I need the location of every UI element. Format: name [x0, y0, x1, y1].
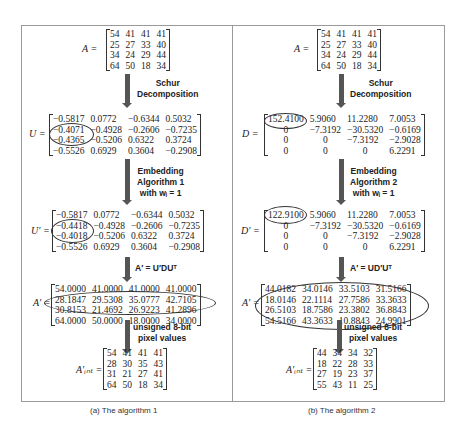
matrix-row: 64501834 [318, 61, 380, 72]
matrix-row: 44343432 [314, 348, 376, 359]
matrix-cell: 5.9060 [307, 210, 344, 221]
matrix-row: 64501834 [107, 61, 169, 72]
matrix-cell: 7.0053 [386, 210, 423, 221]
matrix-cell: −0.7235 [165, 221, 202, 232]
highlight-oval [255, 282, 429, 330]
matrix-row: 55431125 [314, 380, 376, 391]
matrix-row: 54414141 [318, 29, 380, 40]
arrow-down-icon [125, 74, 130, 104]
matrix-cell: −0.6169 [386, 221, 423, 232]
matrix-cell: −2.9028 [386, 231, 423, 242]
step-embedding-label: EmbeddingAlgorithm 1with wᵢ = 1 [137, 166, 184, 199]
matrix-cell: −0.2908 [165, 242, 202, 253]
matrix-u-prime-label: U′ = [31, 225, 50, 236]
caption-b: (b) The algorithm 2 [308, 406, 375, 415]
matrix-cell: −7.3192 [307, 125, 344, 136]
arrow-down-icon [125, 257, 130, 278]
matrix-cell: 0.5032 [162, 114, 199, 125]
matrix-row: 31212741 [104, 369, 166, 380]
matrix-cell: 23 [345, 369, 361, 380]
matrix-a-label: A = [294, 43, 309, 54]
matrix-cell: 50 [123, 61, 139, 72]
matrix-cell: −0.5526 [53, 242, 90, 253]
matrix-cell: −0.5206 [90, 231, 127, 242]
matrix-cell: 0.3724 [162, 135, 199, 146]
matrix-cell: 18 [349, 61, 365, 72]
arrow-down-icon [339, 257, 344, 278]
matrix-cell: 41 [120, 348, 136, 359]
matrix-cell: −0.4928 [90, 221, 127, 232]
step-formula-label: A′ = U′DUᵀ [135, 263, 177, 274]
matrix-cell: 34 [330, 348, 346, 359]
matrix-cell: 0.5032 [165, 210, 202, 221]
matrix-cell: 22 [330, 359, 346, 370]
matrix-cell: 0.3604 [125, 146, 162, 157]
matrix-cell: 33 [349, 40, 365, 51]
matrix-row: −0.55260.69290.3604−0.2908 [53, 242, 203, 253]
matrix-cell: −0.7235 [162, 125, 199, 136]
matrix-cell: 27 [135, 369, 151, 380]
matrix-cell: 18 [135, 380, 151, 391]
matrix-cell: 0 [265, 231, 307, 242]
matrix-cell: 0.6322 [128, 231, 165, 242]
matrix-cell: −30.5320 [344, 125, 386, 136]
matrix-cell: 43 [330, 380, 346, 391]
matrix-cell: −0.2606 [125, 125, 162, 136]
matrix-a-int: 54414141283035433121274164501834 [104, 348, 166, 390]
matrix-a-int-label: A′ᵢₙₜ = [76, 364, 102, 375]
matrix-cell: −0.2606 [128, 221, 165, 232]
highlight-oval [264, 206, 307, 224]
highlight-oval [51, 219, 94, 243]
step-schur-label: SchurDecomposition [137, 78, 198, 100]
matrix-cell: 28 [345, 359, 361, 370]
matrix-cell: 0.3604 [128, 242, 165, 253]
step-schur-label: SchurDecomposition [350, 78, 411, 100]
matrix-cell: 0 [307, 231, 344, 242]
matrix-cell: 21 [120, 369, 136, 380]
matrix-cell: 5.9060 [307, 114, 344, 125]
matrix-cell: 0 [265, 242, 307, 253]
matrix-cell: 27 [123, 40, 139, 51]
matrix-cell: 0 [307, 146, 344, 157]
highlight-oval [49, 123, 94, 146]
matrix-cell: 50 [120, 380, 136, 391]
matrix-cell: 0 [265, 135, 307, 146]
arrow-down-icon [339, 74, 344, 104]
matrix-cell: 35 [135, 359, 151, 370]
matrix-cell: 11.2280 [344, 210, 386, 221]
matrix-cell: 50 [334, 61, 350, 72]
matrix-cell: −0.5526 [50, 146, 87, 157]
matrix-cell: 0 [307, 135, 344, 146]
highlight-oval [264, 113, 307, 129]
matrix-row: 34242944 [107, 50, 169, 61]
matrix-row: −0.55260.69290.3604−0.2908 [50, 146, 200, 157]
matrix-cell: 41 [334, 29, 350, 40]
matrix-cell: 0.3724 [165, 231, 202, 242]
matrix-cell: 11 [345, 380, 361, 391]
matrix-cell: −7.3192 [344, 231, 386, 242]
caption-a: (a) The algorithm 1 [90, 406, 157, 415]
highlight-oval [44, 291, 216, 315]
matrix-row: 54414141 [104, 348, 166, 359]
step-pixel-label: unsigned 8-bitpixel values [344, 322, 402, 344]
matrix-cell: −0.6169 [386, 125, 423, 136]
matrix-cell: 41 [138, 29, 154, 40]
matrix-row: 25273340 [107, 40, 169, 51]
matrix-d-label: D = [242, 128, 258, 139]
matrix-cell: −0.2908 [162, 146, 199, 157]
matrix-row: 25273340 [318, 40, 380, 51]
matrix-row: 54414141 [107, 29, 169, 40]
matrix-cell: −0.6344 [125, 114, 162, 125]
matrix-a-int: 44343432182228332719233755431125 [314, 348, 376, 390]
matrix-cell: 29 [138, 50, 154, 61]
matrix-cell: −30.5320 [344, 221, 386, 232]
matrix-cell: 41 [123, 29, 139, 40]
matrix-row: 18222833 [314, 359, 376, 370]
matrix-row: 28303543 [104, 359, 166, 370]
step-pixel-label: unsigned 8-bitpixel values [133, 322, 191, 344]
matrix-cell: 41 [135, 348, 151, 359]
matrix-u-label: U = [29, 128, 45, 139]
arrow-down-icon [337, 320, 342, 350]
matrix-row: 34242944 [318, 50, 380, 61]
matrix-cell: 0.0772 [87, 114, 124, 125]
